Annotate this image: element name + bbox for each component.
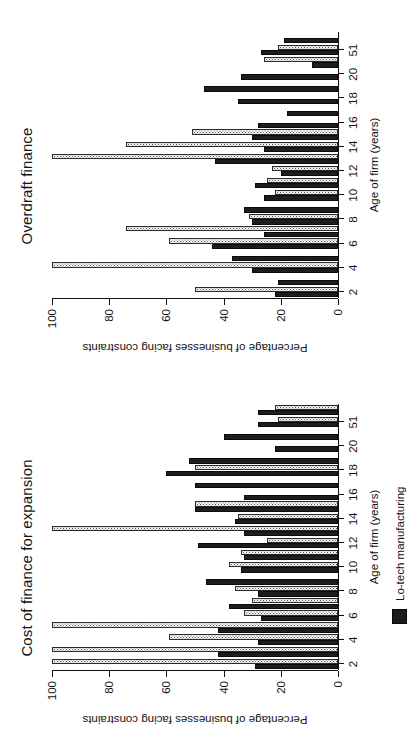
bar-lo-tech xyxy=(244,531,338,536)
y-axis-title-left-text: Percentage of businesses facing constrai… xyxy=(82,714,307,726)
y-axis-tick-label-left: 60 xyxy=(160,681,172,694)
x-axis-tick-left xyxy=(338,518,344,519)
bar-hi-tech xyxy=(52,659,338,664)
bar-lo-tech xyxy=(244,207,338,212)
x-axis-tick-right xyxy=(338,170,344,171)
x-axis-tick-left xyxy=(338,566,344,567)
x-axis-tick-right xyxy=(338,122,344,123)
bar-hi-tech xyxy=(272,166,338,171)
y-axis-title-right: Percentage of businesses facing constrai… xyxy=(52,340,338,356)
legend-lo-tech: Lo-tech manufacturing xyxy=(392,487,407,624)
y-axis-tick-label-right: 40 xyxy=(218,309,230,322)
bar-lo-tech xyxy=(252,268,338,273)
bar-lo-tech xyxy=(258,591,338,596)
x-axis-tick-label-right: 12 xyxy=(347,165,359,178)
bar-hi-tech xyxy=(267,178,339,183)
bar-hi-tech xyxy=(238,514,338,519)
bar-hi-tech xyxy=(195,465,338,470)
x-axis-tick-label-right: 51 xyxy=(347,44,359,57)
y-axis-tick-label-right: 100 xyxy=(46,309,58,328)
bar-lo-tech xyxy=(195,483,338,488)
bar-lo-tech xyxy=(287,111,338,116)
bar-hi-tech xyxy=(235,586,338,591)
y-axis-tick-label-left: 80 xyxy=(103,681,115,694)
y-axis-tick-right xyxy=(224,299,225,305)
x-axis-tick-left xyxy=(338,590,344,591)
x-axis-tick-label-left: 20 xyxy=(347,440,359,453)
x-axis-tick-left xyxy=(338,470,344,471)
x-axis-tick-left xyxy=(338,421,344,422)
bar-lo-tech xyxy=(206,579,338,584)
bar-lo-tech xyxy=(224,434,338,439)
figure: Cost of finance for expansion Percentage… xyxy=(0,0,418,744)
bar-lo-tech xyxy=(252,135,338,140)
x-axis-tick-left xyxy=(338,494,344,495)
bar-lo-tech xyxy=(235,519,338,524)
y-axis-tick-right xyxy=(338,299,339,305)
x-axis-tick-right xyxy=(338,218,344,219)
bar-lo-tech xyxy=(244,555,338,560)
y-axis-tick-label-left: 0 xyxy=(332,681,344,687)
x-axis-tick-right xyxy=(338,73,344,74)
x-axis-tick-label-right: 4 xyxy=(347,265,359,271)
x-axis-tick-right xyxy=(338,98,344,99)
plot-area-right: 020406080100246810121416182051 xyxy=(52,32,338,298)
panel-overdraft-finance: Overdraft finance Percentage of business… xyxy=(0,0,418,372)
bar-lo-tech xyxy=(264,195,338,200)
bar-lo-tech xyxy=(232,256,338,261)
bar-hi-tech xyxy=(278,417,338,422)
x-axis-tick-label-left: 51 xyxy=(347,416,359,429)
x-axis-tick-left xyxy=(338,639,344,640)
bar-lo-tech xyxy=(241,567,338,572)
x-axis-tick-label-right: 16 xyxy=(347,116,359,129)
bar-hi-tech xyxy=(278,45,338,50)
bar-hi-tech xyxy=(52,622,338,627)
bar-lo-tech xyxy=(166,471,338,476)
y-axis-line-left xyxy=(52,670,338,671)
x-axis-line-left xyxy=(338,404,339,670)
bar-lo-tech xyxy=(281,171,338,176)
y-axis-tick-label-right: 60 xyxy=(160,309,172,322)
y-axis-tick-left xyxy=(224,671,225,677)
bar-lo-tech xyxy=(204,86,338,91)
y-axis-title-left: Percentage of businesses facing constrai… xyxy=(52,712,338,728)
y-axis-tick-left xyxy=(109,671,110,677)
x-axis-tick-label-left: 12 xyxy=(347,537,359,550)
x-axis-tick-label-left: 8 xyxy=(347,588,359,594)
x-axis-tick-right xyxy=(338,243,344,244)
bar-lo-tech xyxy=(195,507,338,512)
y-axis-title-right-text: Percentage of businesses facing constrai… xyxy=(82,342,307,354)
bar-lo-tech xyxy=(255,664,338,669)
x-axis-tick-label-left: 6 xyxy=(347,612,359,618)
x-axis-tick-left xyxy=(338,445,344,446)
x-axis-tick-right xyxy=(338,267,344,268)
bar-lo-tech xyxy=(312,62,338,67)
x-axis-tick-label-right: 8 xyxy=(347,216,359,222)
y-axis-tick-label-left: 40 xyxy=(218,681,230,694)
bar-hi-tech xyxy=(275,405,338,410)
bar-hi-tech xyxy=(52,154,338,159)
bars-right xyxy=(52,32,338,298)
bar-hi-tech xyxy=(241,550,338,555)
bar-lo-tech xyxy=(284,38,338,43)
bar-lo-tech xyxy=(212,244,338,249)
bar-hi-tech xyxy=(169,634,338,639)
bar-lo-tech xyxy=(258,640,338,645)
bar-lo-tech xyxy=(264,147,338,152)
x-axis-line-right xyxy=(338,32,339,298)
bar-lo-tech xyxy=(258,410,338,415)
bar-hi-tech xyxy=(52,526,338,531)
bar-lo-tech xyxy=(241,74,338,79)
bar-hi-tech xyxy=(192,129,338,134)
x-axis-tick-right xyxy=(338,194,344,195)
bar-lo-tech xyxy=(275,446,338,451)
x-axis-tick-label-left: 4 xyxy=(347,637,359,643)
bar-hi-tech xyxy=(275,190,338,195)
bar-hi-tech xyxy=(264,57,338,62)
bar-hi-tech xyxy=(229,562,338,567)
y-axis-tick-right xyxy=(109,299,110,305)
bar-hi-tech xyxy=(267,538,339,543)
bar-hi-tech xyxy=(52,647,338,652)
bar-lo-tech xyxy=(275,292,338,297)
y-axis-tick-left xyxy=(281,671,282,677)
